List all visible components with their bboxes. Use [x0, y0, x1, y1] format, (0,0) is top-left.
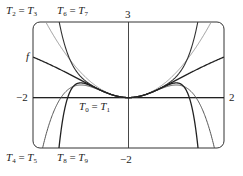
label-eq: =	[67, 151, 79, 163]
tick-label-x-right: 2	[229, 92, 235, 103]
tick-label-y-top: 3	[125, 9, 131, 20]
label-eq: =	[16, 151, 28, 163]
label-t0-t1: T0 = T1	[79, 101, 110, 114]
tick-label-y-bottom: −2	[120, 154, 132, 165]
label-sub: 9	[84, 157, 88, 165]
label-t8-t9: T8 = T9	[57, 152, 88, 165]
label-eq: =	[89, 100, 101, 112]
label-f: f	[26, 51, 29, 62]
label-t2-t3: T2 = T3	[6, 5, 37, 18]
label-sub: 1	[106, 106, 110, 114]
label-sub: 7	[84, 10, 88, 18]
label-t6-t7: T6 = T7	[57, 5, 88, 18]
chart-plot	[0, 0, 243, 176]
tick-label-x-left: −2	[16, 92, 28, 103]
label-eq: =	[67, 4, 79, 16]
label-sub: 3	[33, 10, 37, 18]
label-eq: =	[16, 4, 28, 16]
label-t4-t5: T4 = T5	[6, 152, 37, 165]
label-sub: 5	[33, 157, 37, 165]
